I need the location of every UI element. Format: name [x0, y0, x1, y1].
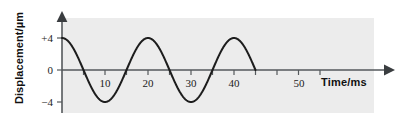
y-axis-title: Displacement/µm [13, 6, 25, 110]
waveform-path [62, 38, 256, 102]
y-tick-label-minus-4: −4 [31, 96, 53, 108]
figure-container: 10 20 30 40 50 +4 0 −4 Time/ms Displacem… [0, 0, 397, 122]
x-tick-label-30: 30 [179, 77, 203, 89]
x-tick-label-20: 20 [136, 77, 160, 89]
y-tick-label-zero: 0 [31, 64, 53, 76]
x-axis-title: Time/ms [321, 76, 367, 88]
x-tick-label-50: 50 [287, 77, 311, 89]
y-tick-label-plus-4: +4 [31, 32, 53, 44]
graph-curve-layer [0, 0, 397, 122]
x-tick-label-10: 10 [93, 77, 117, 89]
x-tick-label-40: 40 [222, 77, 246, 89]
